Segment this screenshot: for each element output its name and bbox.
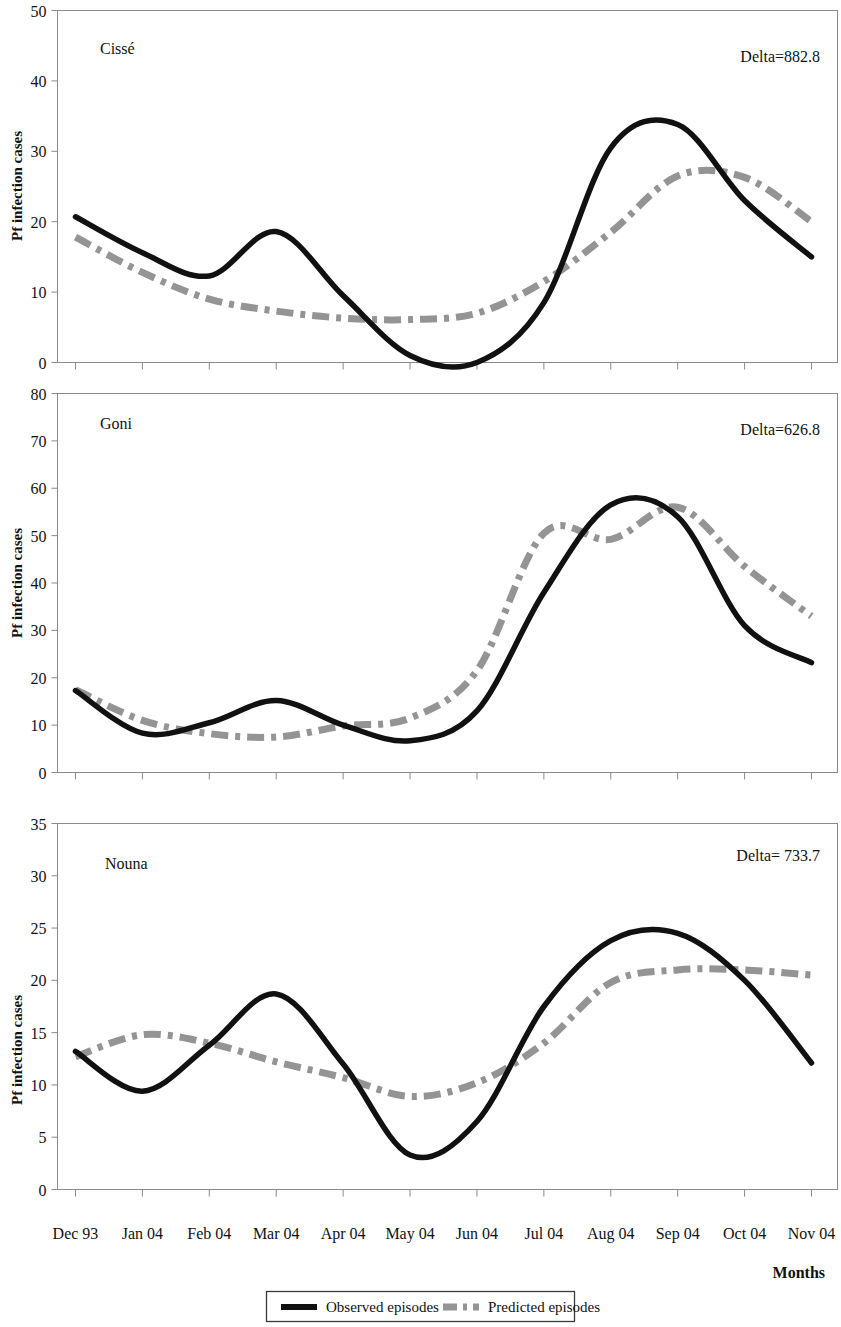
observed-series-line-nouna	[76, 929, 812, 1157]
x-tick-label: Nov 04	[788, 1225, 836, 1242]
y-axis-nouna: 05101520253035	[31, 816, 58, 1199]
plot-frame-nouna	[58, 824, 838, 1190]
y-tick-label: 15	[31, 1025, 47, 1042]
legend-label-predicted: Predicted episodes	[488, 1299, 600, 1315]
legend-label-observed: Observed episodes	[326, 1299, 439, 1315]
x-axis-goni	[76, 773, 812, 780]
site-label-cisse: Cissé	[100, 40, 135, 57]
y-tick-label: 0	[39, 355, 47, 372]
y-tick-label: 20	[31, 214, 47, 231]
y-tick-label: 80	[31, 386, 47, 403]
x-tick-label: Feb 04	[187, 1225, 231, 1242]
x-category-labels: Dec 93Jan 04Feb 04Mar 04Apr 04May 04Jun …	[53, 1225, 836, 1243]
y-tick-label: 60	[31, 480, 47, 497]
x-tick-label: May 04	[385, 1225, 434, 1243]
y-tick-label: 20	[31, 670, 47, 687]
plot-frame-cisse	[58, 11, 838, 363]
predicted-series-line-nouna	[76, 969, 812, 1097]
y-tick-label: 50	[31, 528, 47, 545]
delta-annotation-goni: Delta=626.8	[740, 421, 820, 438]
x-tick-label: Apr 04	[321, 1225, 366, 1243]
chart-panel-cisse: 01020304050 Pf infection cases Cissé Del…	[0, 0, 841, 385]
x-tick-label: Jun 04	[456, 1225, 498, 1242]
chart-svg-nouna: 05101520253035 Pf infection cases Nouna …	[0, 795, 841, 1215]
x-tick-label: Sep 04	[656, 1225, 700, 1243]
chart-svg-goni: 01020304050607080 Pf infection cases Gon…	[0, 385, 841, 795]
x-tick-label: Mar 04	[253, 1225, 300, 1242]
y-axis-title-cisse: Pf infection cases	[9, 131, 25, 241]
x-tick-label: Oct 04	[723, 1225, 766, 1242]
y-tick-label: 50	[31, 3, 47, 20]
y-axis-title-goni: Pf infection cases	[9, 528, 25, 638]
y-tick-label: 0	[39, 765, 47, 782]
delta-annotation-cisse: Delta=882.8	[740, 48, 820, 65]
y-axis-cisse: 01020304050	[31, 3, 58, 372]
predicted-series-line-goni	[76, 507, 812, 738]
observed-series-line-cisse	[76, 120, 812, 367]
x-axis-title: Months	[773, 1264, 825, 1281]
y-tick-label: 20	[31, 972, 47, 989]
figure-root: 01020304050 Pf infection cases Cissé Del…	[0, 0, 841, 1327]
chart-panel-nouna: 05101520253035 Pf infection cases Nouna …	[0, 795, 841, 1215]
predicted-series-line-cisse	[76, 170, 812, 320]
x-tick-label: Aug 04	[587, 1225, 635, 1243]
y-tick-label: 25	[31, 920, 47, 937]
x-tick-label: Dec 93	[53, 1225, 99, 1242]
y-tick-label: 70	[31, 433, 47, 450]
y-tick-label: 10	[31, 1077, 47, 1094]
y-axis-goni: 01020304050607080	[31, 386, 58, 782]
y-tick-label: 10	[31, 284, 47, 301]
x-tick-label: Jul 04	[525, 1225, 564, 1242]
x-axis-nouna	[76, 1190, 812, 1197]
chart-panel-goni: 01020304050607080 Pf infection cases Gon…	[0, 385, 841, 795]
y-tick-label: 0	[39, 1182, 47, 1199]
y-tick-label: 5	[39, 1129, 47, 1146]
y-axis-title-nouna: Pf infection cases	[9, 995, 25, 1105]
observed-series-line-goni	[76, 498, 812, 741]
y-tick-label: 40	[31, 73, 47, 90]
y-tick-label: 40	[31, 575, 47, 592]
site-label-nouna: Nouna	[105, 855, 148, 872]
y-tick-label: 30	[31, 622, 47, 639]
x-axis-labels-and-legend: Dec 93Jan 04Feb 04Mar 04Apr 04May 04Jun …	[0, 1215, 841, 1327]
y-tick-label: 30	[31, 868, 47, 885]
y-tick-label: 10	[31, 717, 47, 734]
chart-svg-cisse: 01020304050 Pf infection cases Cissé Del…	[0, 0, 841, 385]
y-tick-label: 30	[31, 143, 47, 160]
legend: Observed episodes Predicted episodes	[267, 1292, 601, 1322]
x-tick-label: Jan 04	[122, 1225, 163, 1242]
site-label-goni: Goni	[100, 415, 133, 432]
delta-annotation-nouna: Delta= 733.7	[736, 847, 820, 864]
y-tick-label: 35	[31, 816, 47, 833]
